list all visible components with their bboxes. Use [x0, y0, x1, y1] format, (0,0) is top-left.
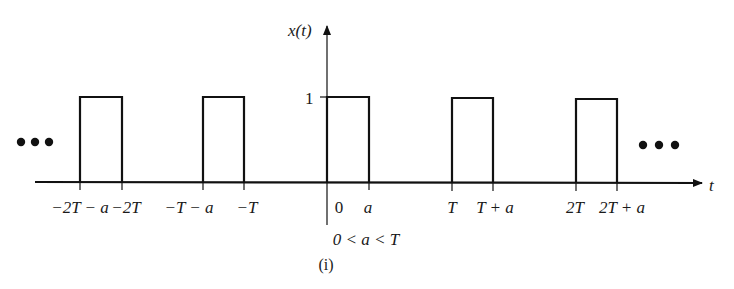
figure-caption: (i) [318, 256, 333, 274]
pulse-zero [327, 97, 369, 182]
continuation-dots-right [639, 141, 679, 149]
tick-label-T: T [447, 198, 458, 217]
tick-label-negT: −T [237, 198, 259, 217]
continuation-dots-left [17, 138, 53, 146]
tick-label-zero: 0 [335, 198, 344, 217]
tick-label-a: a [364, 198, 373, 217]
tick-label-T-plus-a: T + a [476, 198, 514, 217]
pulses [80, 97, 617, 183]
t-axis-label: t [709, 176, 715, 195]
tick-label-neg2T: −2T [111, 198, 142, 217]
constraint-label: 0 < a < T [333, 230, 401, 249]
tick-label-negT-minus-a: −T − a [164, 198, 213, 217]
y-axis-label: x(t) [287, 21, 312, 40]
tick-label-neg2T-minus-a: −2T − a [51, 198, 109, 217]
pulse-neg2T [80, 97, 122, 182]
tick-label-2T: 2T [566, 198, 586, 217]
pulse-negT [203, 97, 244, 182]
amplitude-label: 1 [305, 89, 314, 108]
pulse-2T [576, 99, 617, 183]
tick-label-2T-plus-a: 2T + a [599, 198, 645, 217]
pulse-T [452, 98, 493, 183]
pulse-train-diagram: x(t) 1 t −2T − a −2T −T − a −T 0 a T T +… [0, 0, 734, 289]
